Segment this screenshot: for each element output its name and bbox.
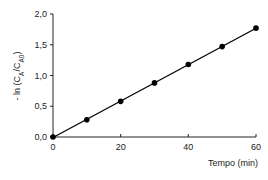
data-point (84, 117, 90, 123)
plot-area (50, 25, 259, 139)
x-tick-label: 40 (183, 142, 193, 152)
data-point (186, 62, 192, 68)
y-tick-label: 0,5 (34, 101, 47, 111)
y-tick-label: 1,0 (34, 71, 47, 81)
y-tick-label: 2,0 (34, 9, 47, 19)
data-point (219, 44, 225, 50)
data-point (50, 134, 56, 140)
x-tick-label: 20 (116, 142, 126, 152)
x-tick-label: 0 (50, 142, 55, 152)
x-axis-label: Tempo (min) (208, 158, 258, 168)
data-point (118, 99, 124, 105)
x-tick-label: 60 (251, 142, 261, 152)
data-point (253, 25, 259, 31)
y-tick-label: 0,0 (34, 132, 47, 142)
y-axis-label: - ln (CA/CA0) (12, 52, 25, 101)
y-tick-label: 1,5 (34, 40, 47, 50)
data-point (152, 80, 158, 86)
chart: 0,00,51,01,52,00204060 - ln (CA/CA0) Tem… (0, 0, 268, 180)
axes: 0,00,51,01,52,00204060 (34, 9, 261, 152)
